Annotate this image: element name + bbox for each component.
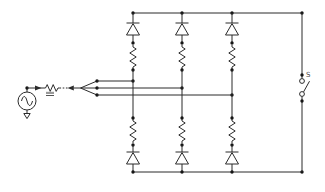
diode xyxy=(176,152,189,164)
junction-dot xyxy=(131,170,134,173)
junction-dot xyxy=(230,41,233,44)
diode xyxy=(226,23,239,35)
branch-2-top xyxy=(176,11,189,118)
branch-2-bottom xyxy=(176,116,189,173)
branch-1-top xyxy=(127,11,140,118)
junction-dot xyxy=(131,41,134,44)
branch-3-top xyxy=(226,11,239,118)
branch-3-bottom xyxy=(226,116,239,173)
circuit-schematic: S xyxy=(0,0,325,192)
diode xyxy=(226,152,239,164)
junction-dot xyxy=(230,170,233,173)
junction-dot xyxy=(180,41,183,44)
junction-dot xyxy=(300,73,303,76)
feed-line-3 xyxy=(95,93,233,96)
schematic-canvas: S xyxy=(0,0,325,192)
junction-dot xyxy=(180,170,183,173)
resistor xyxy=(130,45,136,69)
junction-dot xyxy=(300,99,303,102)
diode xyxy=(176,23,189,35)
series-resistor xyxy=(44,85,60,92)
resistor xyxy=(179,45,185,69)
resistor xyxy=(229,119,235,143)
branch-1-bottom xyxy=(127,116,140,173)
rails xyxy=(133,11,304,173)
right-bus-wire xyxy=(300,13,303,79)
arrow-right-icon xyxy=(35,86,42,91)
ac-source xyxy=(18,86,36,110)
cable-fan xyxy=(81,81,98,95)
resistor xyxy=(130,119,136,143)
switch-terminal xyxy=(300,92,305,97)
ground-icon xyxy=(24,110,30,119)
resistor xyxy=(229,45,235,69)
switch-terminal xyxy=(300,79,305,84)
diode xyxy=(127,23,140,35)
impedance-mark xyxy=(46,92,54,96)
resistor xyxy=(179,119,185,143)
feed-line-1 xyxy=(95,79,134,82)
switch-label: S xyxy=(306,71,311,79)
feed-line-2 xyxy=(95,86,183,89)
arrow-left-icon xyxy=(68,86,74,91)
diode xyxy=(127,152,140,164)
switch-s: S xyxy=(300,71,311,172)
